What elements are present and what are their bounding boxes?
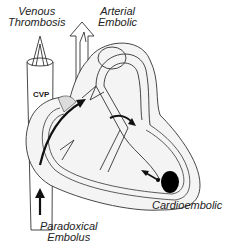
venous-arrow-icon bbox=[32, 36, 48, 66]
venous-thrombosis-label: Venous Thrombosis bbox=[8, 6, 65, 28]
cardioembolic-label: Cardioembolic bbox=[152, 200, 222, 211]
paradoxical-label-line2: Embolus bbox=[40, 232, 97, 243]
arterial-embolic-label: Arterial Embolic bbox=[98, 6, 137, 28]
cvp-label: CVP bbox=[33, 90, 49, 99]
venous-label-line2: Thrombosis bbox=[8, 17, 65, 28]
paradoxical-embolus-label: Paradoxical Embolus bbox=[40, 221, 97, 243]
heart-illustration bbox=[0, 0, 238, 249]
arterial-label-line2: Embolic bbox=[98, 17, 137, 28]
heart-diagram: Venous Thrombosis Arterial Embolic CVP P… bbox=[0, 0, 238, 249]
